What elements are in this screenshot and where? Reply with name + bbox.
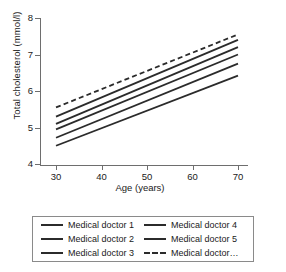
- legend-item[interactable]: Medical doctor 4: [144, 218, 247, 232]
- legend-item[interactable]: Medical doctor 2: [41, 232, 144, 246]
- legend-item[interactable]: Medical doctor 1: [41, 218, 144, 232]
- legend-item[interactable]: Medical doctor…: [144, 246, 247, 260]
- legend-label: Medical doctor 1: [68, 220, 134, 230]
- plot-area: Total cholesterol (mmol/l) 45678 3040506…: [0, 0, 286, 190]
- x-axis-title: Age (years): [40, 182, 240, 193]
- series-line-4: [56, 64, 238, 138]
- legend-label: Medical doctor 3: [68, 248, 134, 258]
- legend-item[interactable]: Medical doctor 3: [41, 246, 144, 260]
- series-line-1: [56, 40, 238, 117]
- series-line-6: [56, 34, 238, 107]
- legend-label: Medical doctor 5: [171, 234, 237, 244]
- legend-label: Medical doctor 2: [68, 234, 134, 244]
- series-lines: [0, 0, 286, 190]
- legend-label: Medical doctor 4: [171, 220, 237, 230]
- cholesterol-age-chart: Total cholesterol (mmol/l) 45678 3040506…: [0, 0, 286, 272]
- series-line-3: [56, 55, 238, 130]
- legend-item[interactable]: Medical doctor 5: [144, 232, 247, 246]
- legend: Medical doctor 1Medical doctor 4Medical …: [32, 216, 254, 262]
- legend-label: Medical doctor…: [171, 248, 239, 258]
